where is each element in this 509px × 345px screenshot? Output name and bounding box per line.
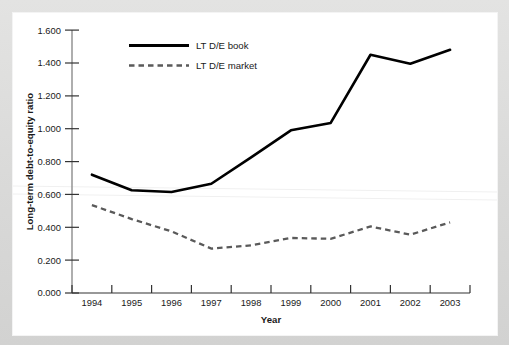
x-axis-title: Year bbox=[261, 314, 282, 325]
y-tick-label: 0.600 bbox=[38, 189, 61, 200]
x-tick-label: 1996 bbox=[161, 297, 182, 308]
figure-root: 0.000 0.200 0.400 0.600 0.800 1.000 1.20… bbox=[0, 0, 509, 345]
y-tick-label: 1.600 bbox=[38, 25, 61, 36]
y-tick-label: 0.400 bbox=[38, 222, 61, 233]
x-tick-label: 2000 bbox=[320, 297, 341, 308]
x-tick-label: 1999 bbox=[280, 297, 301, 308]
y-tick-label: 0.800 bbox=[38, 156, 61, 167]
x-tick-label: 1995 bbox=[121, 297, 142, 308]
x-tick-label: 1998 bbox=[241, 297, 262, 308]
line-chart: 0.000 0.200 0.400 0.600 0.800 1.000 1.20… bbox=[13, 13, 497, 335]
x-tick-label: 2002 bbox=[400, 297, 421, 308]
y-tick-label: 1.000 bbox=[38, 123, 61, 134]
chart-card: 0.000 0.200 0.400 0.600 0.800 1.000 1.20… bbox=[13, 13, 497, 335]
y-tick-label: 1.400 bbox=[38, 57, 61, 68]
legend-label-lt-de-book: LT D/E book bbox=[196, 40, 249, 51]
y-axis-title: Long-term debt-to-equity ratio bbox=[24, 93, 35, 231]
x-tick-label: 2003 bbox=[440, 297, 461, 308]
y-tick-label: 0.000 bbox=[38, 287, 61, 298]
y-tick-label: 0.200 bbox=[38, 255, 61, 266]
legend-label-lt-de-market: LT D/E market bbox=[196, 60, 257, 71]
y-tick-labels: 0.000 0.200 0.400 0.600 0.800 1.000 1.20… bbox=[38, 25, 61, 299]
y-tick-label: 1.200 bbox=[38, 90, 61, 101]
x-tick-label: 1997 bbox=[201, 297, 222, 308]
x-tick-label: 2001 bbox=[360, 297, 381, 308]
x-tick-label: 1994 bbox=[81, 297, 102, 308]
